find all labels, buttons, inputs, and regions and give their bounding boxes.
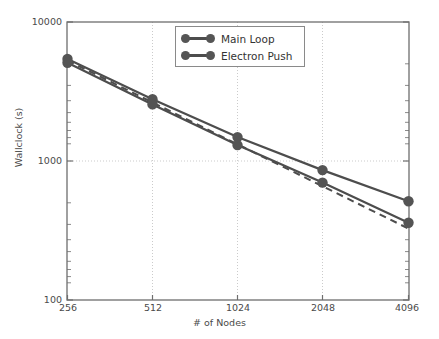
legend-marker-icon <box>181 50 215 61</box>
legend-label: Electron Push <box>221 50 292 62</box>
x-tick-label-1024: 1024 <box>226 302 250 313</box>
legend-marker-icon <box>181 33 215 44</box>
legend-entry-main-loop: Main Loop <box>181 30 299 47</box>
data-point <box>403 218 413 228</box>
x-axis-label: # of Nodes <box>0 317 439 328</box>
y-tick-label-100: 100 <box>16 294 62 305</box>
legend-entry-electron-push: Electron Push <box>181 47 299 64</box>
legend-label: Main Loop <box>221 33 275 45</box>
chart-legend: Main Loop Electron Push <box>175 26 305 67</box>
data-point <box>147 99 157 109</box>
data-point <box>62 58 72 68</box>
x-tick-label-256: 256 <box>59 302 77 313</box>
data-point <box>232 140 242 150</box>
data-point <box>317 165 327 175</box>
data-point <box>403 196 413 206</box>
data-point <box>317 177 327 187</box>
x-tick-label-2048: 2048 <box>311 302 335 313</box>
y-tick-label-10000: 10000 <box>16 16 62 27</box>
x-tick-label-4096: 4096 <box>395 302 419 313</box>
figure-canvas: 10000 1000 100 256 512 1024 2048 4096 Wa… <box>0 0 439 339</box>
x-tick-label-512: 512 <box>144 302 162 313</box>
y-axis-label: Wallclock (s) <box>13 98 24 178</box>
